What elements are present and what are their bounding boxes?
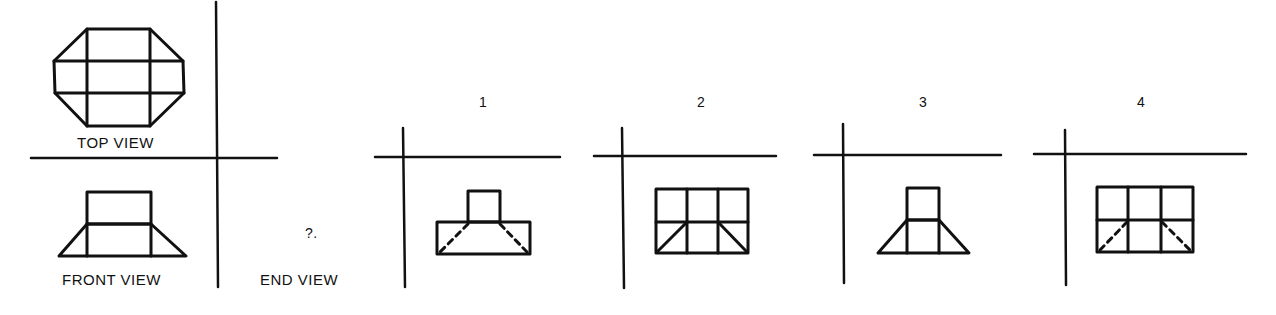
front-view-drawing xyxy=(59,192,186,256)
front-view-label: FRONT VIEW xyxy=(62,271,161,288)
drawing-canvas xyxy=(0,0,1276,315)
unknown-marker: ?. xyxy=(305,225,318,241)
option-4-drawing[interactable] xyxy=(1034,130,1246,285)
option-4-number[interactable]: 4 xyxy=(1137,94,1145,110)
option-1-drawing[interactable] xyxy=(375,128,560,287)
option-3-number[interactable]: 3 xyxy=(919,94,927,110)
top-view-drawing xyxy=(54,29,184,126)
option-3-drawing[interactable] xyxy=(814,124,1001,283)
option-2-number[interactable]: 2 xyxy=(697,94,705,110)
end-view-label: END VIEW xyxy=(260,271,338,288)
option-1-number[interactable]: 1 xyxy=(479,94,487,110)
option-2-drawing[interactable] xyxy=(594,128,776,288)
top-view-label: TOP VIEW xyxy=(77,134,154,151)
